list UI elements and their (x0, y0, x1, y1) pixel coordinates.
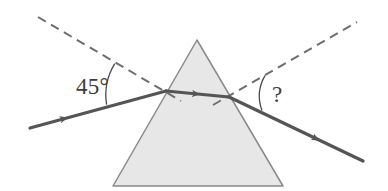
refracted-ray-arrow-icon (296, 129, 316, 139)
optics-diagram-canvas (0, 0, 388, 191)
angle-arc-refracted-icon (259, 76, 265, 111)
normal-line-right-icon (213, 22, 357, 105)
prism-refraction-figure: 45° ? (0, 0, 388, 191)
incident-ray-arrow-icon (44, 119, 64, 125)
normal-line-left-icon (38, 17, 181, 101)
refracted-angle-label: ? (272, 82, 282, 108)
incident-angle-label: 45° (76, 74, 109, 100)
triangular-prism (113, 40, 283, 186)
